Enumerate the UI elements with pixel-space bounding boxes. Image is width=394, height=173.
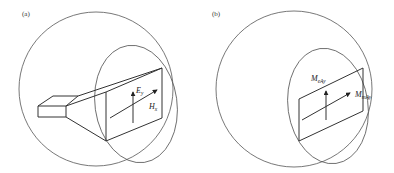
equivalent-aperture xyxy=(299,68,363,141)
aperture-surface-ellipse xyxy=(280,43,375,169)
panel-b-label: (b) xyxy=(212,10,221,18)
e-field-label: Ey xyxy=(135,86,144,96)
panel-a: (a) Ey Hx xyxy=(19,10,185,168)
waveguide-feed xyxy=(38,96,78,117)
panel-a-label: (a) xyxy=(22,10,30,18)
enclosing-sphere xyxy=(19,12,173,166)
aperture-surface-ellipse xyxy=(87,40,185,168)
figure-canvas: (a) Ey Hx (b) xyxy=(0,0,394,173)
horn-flare xyxy=(66,68,162,141)
panel-b: (b) MeAy MmAy xyxy=(212,10,376,169)
electric-current-label: MeAy xyxy=(310,74,326,84)
h-field-label: Hx xyxy=(148,102,158,112)
enclosing-sphere xyxy=(216,11,372,167)
